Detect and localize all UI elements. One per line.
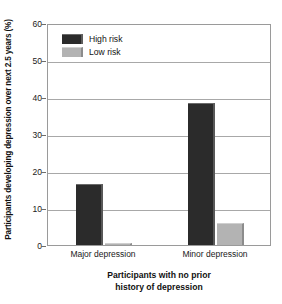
legend: High risk Low risk (62, 33, 122, 59)
bar (105, 243, 132, 245)
x-axis-tick-label: Major depression (70, 249, 135, 259)
gridline (48, 99, 270, 100)
low-risk-swatch-icon (62, 47, 83, 57)
bar (188, 103, 215, 245)
legend-item-low-risk: Low risk (62, 46, 122, 58)
y-axis-tick-mark (41, 24, 46, 25)
gridline (48, 62, 270, 63)
y-axis-tick-mark (41, 246, 46, 247)
gridline (48, 136, 270, 137)
legend-item-high-risk: High risk (62, 33, 122, 45)
y-axis-tick-labels: 0102030405060 (16, 0, 46, 258)
gridline (48, 173, 270, 174)
y-axis-tick-mark (41, 172, 46, 173)
y-axis-tick-mark (41, 209, 46, 210)
y-axis-tick-mark (41, 61, 46, 62)
y-axis-tick-mark (41, 98, 46, 99)
legend-item-label: High risk (89, 34, 122, 44)
bar (217, 223, 244, 245)
high-risk-swatch-icon (62, 34, 83, 44)
legend-item-label: Low risk (89, 47, 121, 57)
x-axis-title-line-2: history of depression (47, 282, 271, 294)
bar (76, 184, 103, 245)
plot-area: High risk Low risk (47, 24, 271, 246)
bar-chart-figure: Participants developing depression over … (0, 0, 282, 304)
x-axis-title: Participants with no prior history of de… (47, 270, 271, 293)
x-axis-title-line-1: Participants with no prior (47, 270, 271, 282)
x-axis-tick-labels: Major depressionMinor depression (47, 249, 271, 265)
x-axis-tick-label: Minor depression (182, 249, 247, 259)
y-axis-title: Participants developing depression over … (0, 0, 16, 258)
y-axis-title-text: Participants developing depression over … (4, 19, 13, 240)
y-axis-tick-mark (41, 135, 46, 136)
